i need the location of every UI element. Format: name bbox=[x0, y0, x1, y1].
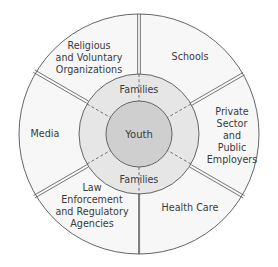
sector-schools: Schools bbox=[172, 51, 209, 62]
sector-media: Media bbox=[31, 128, 60, 139]
middle-label-families-bottom: Families bbox=[120, 174, 159, 185]
sector-label-line: and bbox=[223, 130, 241, 141]
sector-label-line: Sector bbox=[217, 118, 248, 129]
center-label-youth: Youth bbox=[124, 129, 153, 140]
sector-label-line: Private bbox=[215, 106, 249, 117]
sector-label-line: Organizations bbox=[56, 64, 122, 75]
sector-label-line: Agencies bbox=[70, 218, 113, 229]
middle-label-families-top: Families bbox=[120, 84, 159, 95]
sector-label-line: Schools bbox=[172, 51, 209, 62]
sector-label-line: Law bbox=[82, 182, 101, 193]
sector-label-line: Public bbox=[218, 142, 246, 153]
sector-label-line: Health Care bbox=[162, 202, 219, 213]
sector-health-care: Health Care bbox=[162, 202, 219, 213]
sector-label-line: and Voluntary bbox=[56, 52, 123, 63]
sector-label-line: and Regulatory bbox=[55, 206, 129, 217]
sector-label-line: Enforcement bbox=[61, 194, 123, 205]
sector-label-line: Religious bbox=[67, 40, 110, 51]
sector-label-line: Employers bbox=[207, 154, 258, 165]
youth-diagram: Youth Families Families Religious and Vo… bbox=[0, 0, 278, 267]
sector-label-line: Media bbox=[31, 128, 60, 139]
